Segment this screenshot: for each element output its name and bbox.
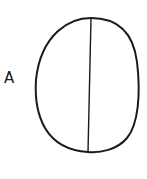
oval-outline xyxy=(36,18,139,152)
vertical-divider xyxy=(88,18,91,152)
oval-diagram xyxy=(0,0,147,179)
diagram-canvas: A xyxy=(0,0,147,179)
